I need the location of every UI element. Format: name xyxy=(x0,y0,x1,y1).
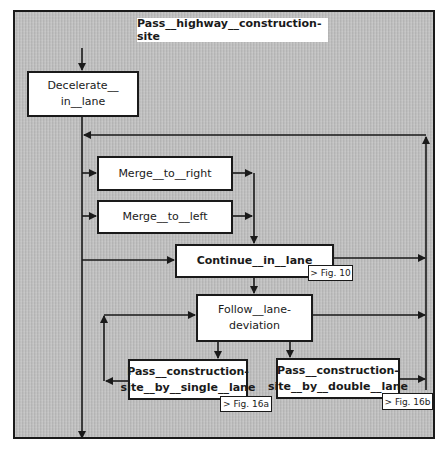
node-label: Follow__lane- deviation xyxy=(218,302,291,334)
node-pass-single-lane: Pass__construction- site__by__single__la… xyxy=(128,359,248,400)
figure-ref-tag: > Fig. 16b xyxy=(382,393,433,410)
figure-ref-text: > Fig. 10 xyxy=(310,268,350,278)
node-merge-to-right: Merge__to__right xyxy=(97,156,233,191)
node-label: Merge__to__right xyxy=(118,166,211,182)
diagram-title-text: Pass__highway__construction-site xyxy=(137,17,328,43)
node-merge-to-left: Merge__to__left xyxy=(97,200,233,234)
figure-ref-text: > Fig. 16a xyxy=(223,399,269,409)
node-label: Merge__to__left xyxy=(122,209,207,225)
figure-ref-tag: > Fig. 10 xyxy=(308,265,353,281)
node-label: Continue__in__lane xyxy=(197,253,313,269)
node-decelerate-in-lane: Decelerate__ in__lane xyxy=(27,71,139,117)
node-label: Pass__construction- site__by__single__la… xyxy=(121,364,256,396)
diagram-title: Pass__highway__construction-site xyxy=(137,18,328,42)
figure-ref-text: > Fig. 16b xyxy=(384,397,430,407)
figure-ref-tag: > Fig. 16a xyxy=(220,396,272,412)
node-label: Decelerate__ in__lane xyxy=(47,78,118,110)
node-label: Pass__construction- site__by__double__la… xyxy=(268,363,408,395)
node-follow-lane-deviation: Follow__lane- deviation xyxy=(196,294,313,342)
